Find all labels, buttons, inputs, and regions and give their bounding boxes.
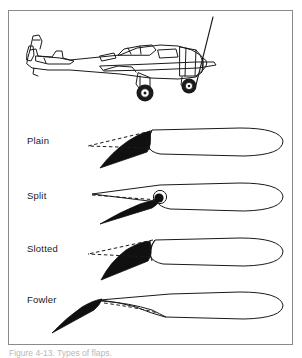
split-wing-outline (92, 183, 283, 211)
split-flap-diagram: Split (27, 183, 283, 224)
split-flap-surface (100, 199, 160, 224)
fowler-wing-outline (100, 292, 283, 319)
slotted-flap-diagram: Slotted (27, 238, 283, 280)
figure-container: Plain Split Slotted (0, 0, 302, 358)
tailwheel-strut (33, 68, 38, 76)
plain-wing-outline (148, 128, 283, 156)
main-wheel-right (182, 79, 197, 94)
slotted-wing-outline (150, 238, 283, 266)
main-wheel-left (137, 85, 154, 102)
plain-flap-label: Plain (27, 135, 49, 146)
slotted-flap-surface (101, 241, 151, 280)
flap-types-diagram: Plain Split Slotted (0, 0, 302, 358)
spinner (203, 58, 207, 70)
cowl-line-1 (185, 48, 186, 76)
slotted-flap-label: Slotted (27, 243, 58, 254)
fowler-flap-label: Fowler (27, 294, 57, 305)
cowl-line-2 (195, 50, 196, 76)
plain-flap-diagram: Plain (27, 128, 283, 168)
split-flap-label: Split (27, 190, 47, 201)
fowler-flap-diagram: Fowler (27, 292, 283, 333)
fowler-flap-surface (52, 299, 102, 333)
plain-flap-surface (100, 131, 151, 168)
figure-caption: Figure 4-13. Types of flaps. (9, 349, 209, 358)
horizontal-stabilizer (36, 56, 74, 64)
cabin-window-2 (158, 49, 178, 58)
split-flap-hinge (154, 193, 163, 202)
elevator-line (44, 58, 46, 63)
vertical-stabilizer (30, 35, 42, 50)
